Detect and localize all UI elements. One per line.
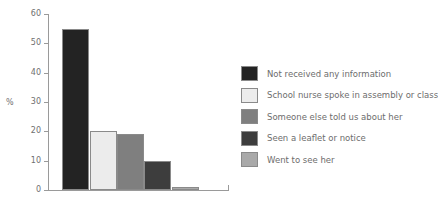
bar-1 (62, 29, 89, 190)
legend-swatch-icon (241, 131, 258, 146)
legend-swatch-icon (241, 66, 258, 81)
legend-item-label: Went to see her (267, 155, 335, 165)
legend-item-5[interactable]: Went to see her (241, 149, 429, 171)
chart-legend: Not received any informationSchool nurse… (241, 63, 429, 171)
legend-item-label: Not received any information (267, 69, 391, 79)
legend-swatch-icon (241, 88, 258, 103)
legend-item-label: Someone else told us about her (267, 112, 402, 122)
legend-item-1[interactable]: Not received any information (241, 63, 429, 85)
legend-item-3[interactable]: Someone else told us about her (241, 106, 429, 128)
legend-swatch-icon (241, 109, 258, 124)
legend-item-label: School nurse spoke in assembly or class (267, 90, 438, 100)
legend-swatch-icon (241, 152, 258, 167)
bar-5 (172, 187, 199, 190)
legend-item-2[interactable]: School nurse spoke in assembly or class (241, 85, 429, 107)
bar-4 (144, 161, 171, 190)
bars-group (0, 0, 235, 203)
bar-2 (90, 131, 117, 190)
plot-area: 0102030405060 % (0, 0, 235, 203)
legend-item-label: Seen a leaflet or notice (267, 133, 366, 143)
bar-3 (117, 134, 144, 190)
legend-item-4[interactable]: Seen a leaflet or notice (241, 128, 429, 150)
